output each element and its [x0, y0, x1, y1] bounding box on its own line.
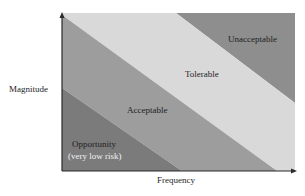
region-sublabel-opportunity: (very low risk) — [68, 152, 122, 161]
region-label-acceptable: Acceptable — [127, 106, 167, 115]
region-label-opportunity: Opportunity — [72, 140, 116, 149]
region-label-tolerable: Tolerable — [185, 70, 219, 79]
region-label-unacceptable: Unacceptable — [228, 35, 277, 44]
risk-matrix-diagram — [0, 0, 305, 196]
x-axis-label: Frequency — [157, 176, 195, 185]
y-axis-label: Magnitude — [9, 85, 48, 94]
